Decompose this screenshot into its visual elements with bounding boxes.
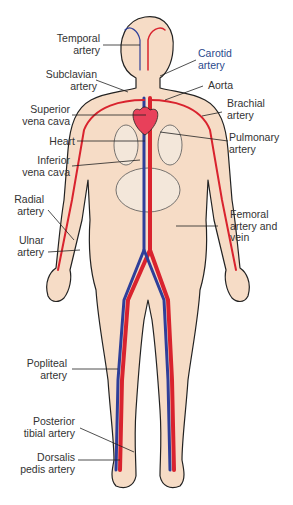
label-dorsalis-pedis-artery: Dorsalispedis artery [20, 452, 75, 475]
label-popliteal-artery: Poplitealartery [27, 358, 67, 381]
label-temporal-artery: Temporalartery [57, 33, 100, 56]
label-posterior-tibial-artery: Posteriortibial artery [24, 416, 75, 439]
label-pulmonary-artery: Pulmonaryartery [229, 132, 279, 155]
label-femoral-artery-and-vein: Femoralartery andvein [230, 209, 277, 244]
label-ulnar-artery: Ulnarartery [17, 235, 44, 258]
label-brachial-artery: Brachialartery [227, 98, 265, 121]
label-heart: Heart [49, 136, 75, 148]
label-inferior-vena-cava: Inferiorvena cava [22, 155, 70, 178]
label-radial-artery: Radialartery [14, 194, 44, 217]
label-superior-vena-cava: Superiorvena cava [22, 104, 70, 127]
label-aorta: Aorta [208, 80, 233, 92]
circulatory-diagram: Temporalartery Subclavianartery Superior… [0, 0, 293, 505]
label-carotid-artery: Carotidartery [198, 48, 232, 71]
label-subclavian-artery: Subclavianartery [46, 69, 97, 92]
